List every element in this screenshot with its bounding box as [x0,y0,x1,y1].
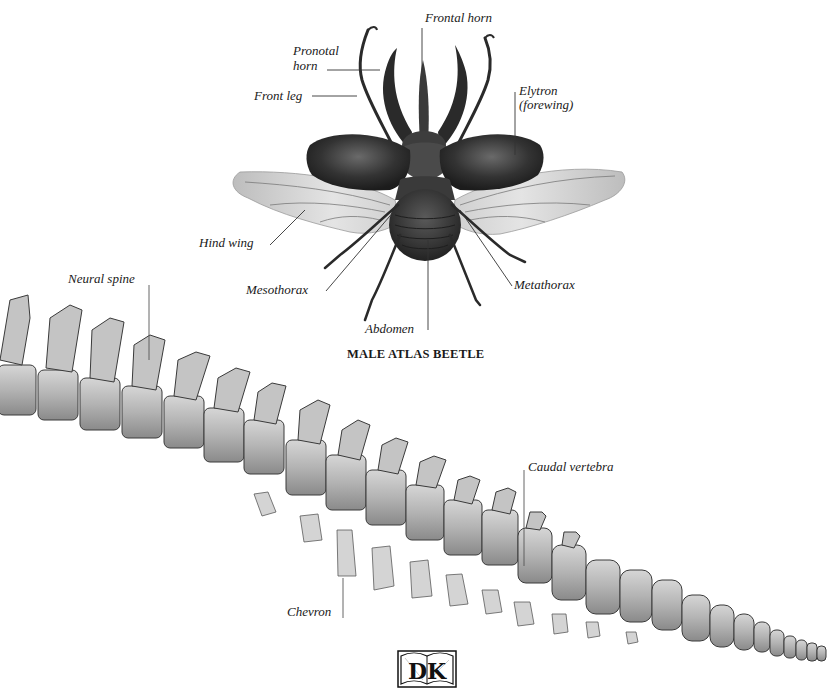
abdomen-shape [389,189,461,261]
logo-letters: DK [408,658,447,684]
label-frontal-horn: Frontal horn [425,11,492,25]
frontal-horn [419,60,429,142]
label-neural-spine: Neural spine [68,272,135,286]
label-pronotal-horn-line2: horn [293,59,318,73]
label-abdomen: Abdomen [365,322,414,336]
publisher-logo: DK [397,648,457,690]
label-mesothorax: Mesothorax [246,283,308,297]
figure-title-beetle: MALE ATLAS BEETLE [347,347,484,362]
label-chevron: Chevron [287,605,331,619]
label-elytron-line1: Elytron [519,84,558,98]
label-hind-wing: Hind wing [199,236,254,250]
label-caudal-vertebra: Caudal vertebra [528,460,614,474]
label-metathorax: Metathorax [514,278,575,292]
label-pronotal-horn-line1: Pronotal [293,44,339,58]
label-elytron-line2: (forewing) [519,98,573,112]
open-book-icon: DK [397,648,457,690]
label-front-leg: Front leg [254,89,302,103]
